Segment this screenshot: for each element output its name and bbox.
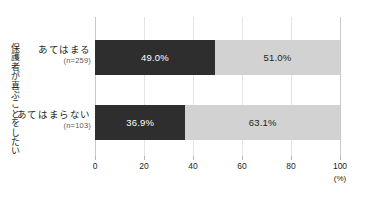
tick-mark-20 xyxy=(144,156,145,160)
gridline-100 xyxy=(340,17,341,156)
bar-row: 36.9%63.1% xyxy=(95,105,340,140)
x-axis: 020406080100 (%) xyxy=(95,156,340,188)
plot-area: 49.0%51.0%36.9%63.1% xyxy=(95,17,340,156)
x-axis-unit-label: (%) xyxy=(334,174,346,183)
bar-row: 49.0%51.0% xyxy=(95,40,340,75)
y-axis-title: 保護者が喜ぶことをしたい xyxy=(2,18,20,180)
stacked-bar-chart: 保護者が喜ぶことをしたい 49.0%51.0%36.9%63.1% あてはまる(… xyxy=(0,0,369,198)
tick-label-60: 60 xyxy=(237,161,246,171)
category-name: あてはまらない xyxy=(1,110,91,121)
tick-label-100: 100 xyxy=(333,161,347,171)
bar-segment-light: 51.0% xyxy=(215,40,340,75)
category-label: あてはまる(n=259) xyxy=(1,45,91,66)
category-label: あてはまらない(n=103) xyxy=(1,110,91,131)
bar-segment-dark: 36.9% xyxy=(95,105,185,140)
bar-segment-dark: 49.0% xyxy=(95,40,215,75)
category-sample-size: (n=103) xyxy=(1,122,91,131)
bar-segment-light: 63.1% xyxy=(185,105,340,140)
tick-label-80: 80 xyxy=(286,161,295,171)
tick-label-0: 0 xyxy=(93,161,98,171)
category-sample-size: (n=259) xyxy=(1,57,91,66)
tick-mark-80 xyxy=(291,156,292,160)
category-name: あてはまる xyxy=(1,45,91,56)
tick-label-20: 20 xyxy=(139,161,148,171)
tick-mark-40 xyxy=(193,156,194,160)
tick-mark-60 xyxy=(242,156,243,160)
tick-mark-100 xyxy=(340,156,341,160)
tick-label-40: 40 xyxy=(188,161,197,171)
tick-mark-0 xyxy=(95,156,96,160)
